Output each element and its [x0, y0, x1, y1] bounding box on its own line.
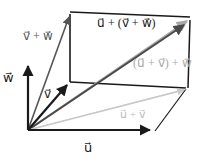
label-v: v⃗	[44, 88, 51, 100]
edge-vertical-at-uv	[188, 20, 190, 88]
edge-mid-horizontal	[70, 82, 186, 88]
label-uv-plus-w: (u⃗ + v⃗) + w⃗	[133, 57, 192, 69]
label-u-plus-vw: u⃗ + (v⃗ + w⃗)	[97, 17, 156, 29]
label-u: u⃗	[84, 141, 92, 154]
label-v-plus-w: v⃗ + w⃗	[23, 30, 53, 42]
vector-addition-diagram: v⃗ + w⃗ w⃗ v⃗ u⃗ u⃗ + (v⃗ + w⃗) (u⃗ + v⃗…	[0, 0, 215, 163]
label-w: w⃗	[3, 71, 14, 84]
label-u-plus-v: u⃗ + v⃗	[120, 109, 146, 120]
edge-v-translated-at-u	[155, 89, 186, 131]
